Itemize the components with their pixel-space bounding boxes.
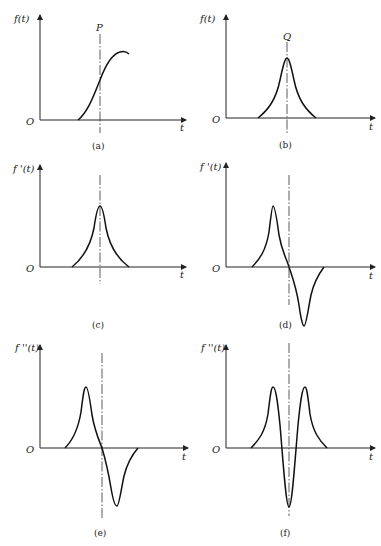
panel-a: f(t) O t P (a) <box>13 13 186 151</box>
y-axis-label: f '(t) <box>199 161 222 172</box>
origin-label: O <box>26 263 34 274</box>
sigmoid-curve <box>78 52 129 120</box>
derivative-curve <box>252 206 324 326</box>
panel-caption: (a) <box>92 141 104 151</box>
x-axis-label: t <box>369 451 374 462</box>
x-axis-label: t <box>182 451 187 462</box>
y-axis-label: f(t) <box>199 13 216 24</box>
y-axis-label: f ''(t) <box>14 342 39 353</box>
panel-e: f ''(t) O t (e) <box>14 342 188 538</box>
second-derivative-curve <box>65 387 138 506</box>
panel-caption: (f) <box>280 528 290 538</box>
x-axis-label: t <box>369 121 374 132</box>
bell-curve <box>72 206 129 267</box>
origin-label: O <box>212 263 220 274</box>
panel-caption: (b) <box>279 140 292 150</box>
point-label: P <box>95 22 103 33</box>
origin-label: O <box>26 116 34 127</box>
x-axis-label: t <box>369 270 374 281</box>
point-label: Q <box>283 31 291 42</box>
panel-caption: (d) <box>279 320 292 330</box>
origin-label: O <box>26 444 34 455</box>
panel-f: f ''(t) O t (f) <box>200 342 375 538</box>
y-axis-label: f ''(t) <box>200 342 225 353</box>
x-axis-label: t <box>180 269 185 280</box>
panel-c: f '(t) O t (c) <box>12 163 186 330</box>
origin-label: O <box>212 114 220 125</box>
panel-caption: (e) <box>94 528 106 538</box>
y-axis-label: f(t) <box>13 13 30 24</box>
derivative-diagram: f(t) O t P (a) f(t) O t Q (b) f '(t) O t… <box>0 0 381 546</box>
panel-d: f '(t) O t (d) <box>199 161 375 330</box>
panel-b: f(t) O t Q (b) <box>199 13 375 150</box>
origin-label: O <box>212 444 220 455</box>
y-axis-label: f '(t) <box>12 163 35 174</box>
panel-caption: (c) <box>92 320 104 330</box>
x-axis-label: t <box>180 122 185 133</box>
